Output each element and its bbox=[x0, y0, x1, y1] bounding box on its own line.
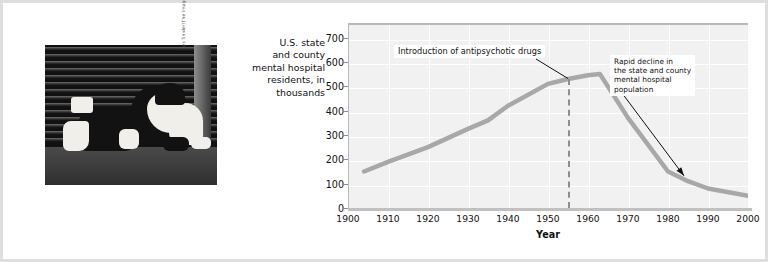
y-axis-tick-mark bbox=[344, 62, 348, 63]
annotation-antipsychotic-drugs: Introduction of antipsychotic drugs bbox=[394, 45, 545, 58]
x-axis-tick-label: 1910 bbox=[376, 213, 399, 224]
annotation-rapid-decline-line-2: the state and county bbox=[614, 66, 691, 75]
annotation-rapid-decline-line-3: mental hospital bbox=[614, 75, 691, 84]
annotation-rapid-decline-line-1: Rapid decline in bbox=[614, 57, 691, 66]
x-gridline bbox=[749, 25, 750, 208]
x-axis-tick-label: 1980 bbox=[656, 213, 679, 224]
y-axis-tick-mark bbox=[344, 208, 348, 209]
x-axis-tick-label: 1970 bbox=[616, 213, 639, 224]
x-axis-tick-label: 1900 bbox=[336, 213, 359, 224]
antipsychotic-drugs-marker-line bbox=[568, 79, 570, 208]
y-axis-title-line-4: residents, in bbox=[225, 74, 325, 86]
y-axis-tick-mark bbox=[344, 135, 348, 136]
y-axis-title-line-1: U.S. state bbox=[225, 37, 325, 49]
y-axis-tick-mark bbox=[344, 111, 348, 112]
y-axis-tick-mark bbox=[344, 38, 348, 39]
photo-block bbox=[45, 45, 217, 185]
y-axis-tick-mark bbox=[344, 86, 348, 87]
photograph bbox=[45, 45, 217, 185]
y-axis-title: U.S. state and county mental hospital re… bbox=[225, 37, 325, 99]
chart: U.S. state and county mental hospital re… bbox=[225, 11, 759, 257]
x-axis-tick-label: 1990 bbox=[696, 213, 719, 224]
x-axis-tick-label: 1930 bbox=[456, 213, 479, 224]
y-axis-tick-label: 600 bbox=[326, 56, 344, 67]
x-axis-tick-label: 2000 bbox=[736, 213, 759, 224]
y-axis-tick-mark bbox=[344, 159, 348, 160]
annotation-rapid-decline-line-4: population bbox=[614, 85, 691, 94]
y-axis-tick-label: 400 bbox=[326, 105, 344, 116]
x-axis-title: Year bbox=[348, 229, 748, 240]
x-axis-tick-label: 1960 bbox=[576, 213, 599, 224]
x-axis-tick-label: 1950 bbox=[536, 213, 559, 224]
y-axis-tick-label: 100 bbox=[326, 178, 344, 189]
x-axis-line bbox=[348, 208, 752, 211]
photo-credit: Les Snider/The Image Works bbox=[181, 0, 186, 49]
y-axis-title-line-3: mental hospital bbox=[225, 62, 325, 74]
y-axis-tick-label: 300 bbox=[326, 129, 344, 140]
y-axis-title-line-2: and county bbox=[225, 49, 325, 61]
y-axis-tick-mark bbox=[344, 184, 348, 185]
plot-area-wrapper: Introduction of antipsychotic drugs Rapi… bbox=[348, 23, 748, 208]
figure-panel: Les Snider/The Image Works U.S. state an… bbox=[0, 0, 768, 262]
sidewalk bbox=[45, 147, 217, 185]
x-axis-tick-label: 1920 bbox=[416, 213, 439, 224]
y-axis-tick-label: 500 bbox=[326, 81, 344, 92]
x-axis-tick-label: 1940 bbox=[496, 213, 519, 224]
annotation-rapid-decline: Rapid decline in the state and county me… bbox=[610, 55, 695, 96]
y-axis-title-line-5: thousands bbox=[225, 87, 325, 99]
y-axis-tick-label: 200 bbox=[326, 154, 344, 165]
y-axis-tick-label: 700 bbox=[326, 32, 344, 43]
